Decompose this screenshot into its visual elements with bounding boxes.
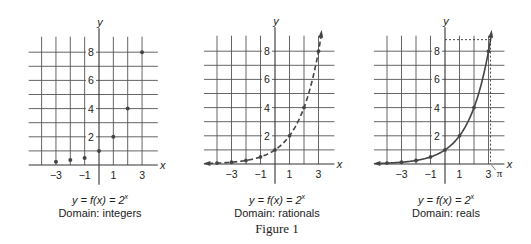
data-point [288,134,292,138]
data-point [317,49,321,53]
data-point [487,49,491,53]
x-axis-label: x [336,158,343,170]
data-point [458,134,462,138]
data-point [244,159,248,163]
y-tick-label: 8 [88,46,94,58]
y-axis-label: y [442,15,450,27]
data-point [83,156,87,160]
arrowhead-left-icon [203,161,210,166]
domain-label-integers: Domain: integers [20,207,180,220]
x-tick-label: −1 [425,168,437,180]
equation-rationals: y = f(x) = 2x [197,190,357,207]
data-point [414,159,418,163]
domain-label-reals: Domain: reals [366,207,526,220]
plot-rationals: xy−3−1132468 [203,15,342,184]
equation-integers: y = f(x) = 2x [20,190,180,207]
x-axis-label: x [506,158,513,170]
x-tick-label: −3 [396,168,408,180]
pi-pointer [492,165,496,170]
y-tick-label: 4 [264,102,270,114]
x-tick-label: 1 [110,169,116,181]
y-tick-label: 6 [88,74,94,86]
y-tick-label: 4 [88,103,94,115]
equation-reals: y = f(x) = 2x [366,190,526,207]
data-point [400,160,404,164]
pi-label: π [497,167,503,179]
x-tick-label: −3 [50,169,62,181]
data-point [259,155,263,159]
y-axis-label: y [272,15,280,27]
data-point [54,160,58,164]
y-tick-label: 2 [434,130,440,142]
y-tick-label: 8 [434,45,440,57]
arrowhead-up-icon [318,30,323,38]
data-point [111,135,115,139]
x-tick-label: 1 [287,168,293,180]
y-axis-label: y [96,16,104,28]
data-point [140,50,144,54]
y-tick-label: 2 [88,131,94,143]
domain-label-rationals: Domain: rationals [197,207,357,220]
data-point [302,106,306,110]
plot-integers: xy−3−1132468 [29,16,166,185]
plot-reals: xy−3−1132468π [373,15,512,184]
x-tick-label: 3 [139,169,145,181]
figure-title: Figure 1 [227,221,327,237]
y-tick-label: 6 [434,73,440,85]
caption-integers: y = f(x) = 2x Domain: integers [20,190,180,220]
x-tick-label: −1 [255,168,267,180]
arrowhead-up-icon [488,30,493,38]
y-tick-label: 4 [434,102,440,114]
data-point [472,106,476,110]
data-point [230,160,234,164]
data-point [429,155,433,159]
arrowhead-left-icon [373,161,380,166]
data-point [273,148,277,152]
y-tick-label: 8 [264,45,270,57]
data-point [126,107,130,111]
data-point [443,148,447,152]
x-tick-label: 1 [457,168,463,180]
x-tick-label: 3 [316,168,322,180]
caption-reals: y = f(x) = 2x Domain: reals [366,190,526,220]
y-tick-label: 2 [264,130,270,142]
y-tick-label: 6 [264,73,270,85]
x-tick-label: 3 [486,168,492,180]
x-tick-label: −1 [79,169,91,181]
data-point [97,149,101,153]
data-point [385,161,389,165]
data-point [215,161,219,165]
x-tick-label: −3 [226,168,238,180]
caption-rationals: y = f(x) = 2x Domain: rationals [197,190,357,220]
x-axis-label: x [159,159,166,171]
figure-1: xy−3−1132468xy−3−1132468xy−3−1132468π y … [0,0,531,244]
data-point [68,158,72,162]
